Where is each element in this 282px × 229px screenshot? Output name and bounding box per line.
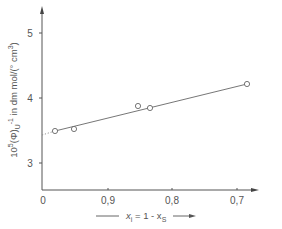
x-label-arrow-icon bbox=[189, 214, 196, 218]
y-axis-label: 105(Φ)U-1 in dm mol/(° cm3) bbox=[7, 42, 21, 158]
data-point bbox=[52, 128, 57, 133]
x-tick-label-0.9: 0,9 bbox=[101, 195, 115, 206]
axes bbox=[40, 6, 259, 192]
svg-text:xi = 1 - xS: xi = 1 - xS bbox=[125, 210, 167, 223]
x-tick-label-0.8: 0,8 bbox=[165, 195, 179, 206]
y-tick-label-5: 5 bbox=[27, 28, 33, 39]
data-points bbox=[52, 81, 249, 133]
y-tick-label-3: 3 bbox=[27, 158, 33, 169]
data-point bbox=[71, 126, 76, 131]
data-point bbox=[244, 81, 249, 86]
x-axis-label: xi = 1 - xS bbox=[96, 210, 196, 223]
data-point bbox=[135, 103, 140, 108]
y-tick-label-4: 4 bbox=[27, 93, 33, 104]
x-tick-label-0.7: 0,7 bbox=[230, 195, 244, 206]
x-ticks: 0 0,9 0,8 0,7 bbox=[40, 188, 244, 206]
y-ticks: 5 4 3 bbox=[27, 28, 42, 169]
y-axis-arrow-icon bbox=[40, 6, 44, 14]
x-axis-arrow-icon bbox=[251, 188, 259, 192]
data-point bbox=[147, 105, 152, 110]
chart-canvas: 5 4 3 0 0,9 0,8 0,7 105(Φ)U-1 in dm mol/… bbox=[0, 0, 282, 229]
x-tick-label-0: 0 bbox=[40, 195, 46, 206]
svg-text:105(Φ)U-1 in dm mol/(° cm3): 105(Φ)U-1 in dm mol/(° cm3) bbox=[7, 42, 21, 158]
